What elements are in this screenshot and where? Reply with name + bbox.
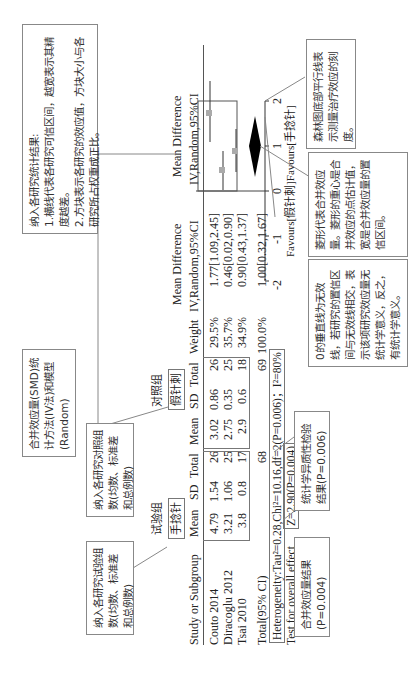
tick-neg2: -2 xyxy=(270,280,284,290)
annotation-overall: 合并效应量结果(P=0.004) xyxy=(294,537,330,637)
annotation-effect-model: 合并效应量(SMD)统计方法(IV法)和模型(Random) xyxy=(22,349,76,457)
annotation-study-results: 纳入各研究统计结果: 1.横线代表各研究可信区间，越宽表示其精度越差。 2.方块… xyxy=(22,24,98,234)
annotation-diamond: 菱形代表合并效应量。菱形的重心是合并效应的点估计值，宽是合并效应量的置信区间。 xyxy=(308,152,408,257)
tick-0: 0 xyxy=(270,188,284,194)
annotation-exp-data: 纳入各研究试验组数(均数、标准差和总例数) xyxy=(86,541,134,635)
annotation-heterogeneity: 统计学异质性检验结果(P=0.006) xyxy=(294,411,330,511)
forest-plot-figure: 试验组 手捻针 对照组 假针刺 Study or Subgroup Mean S… xyxy=(0,0,418,697)
tick-1: 1 xyxy=(270,143,284,149)
annotation-axis: 森林图底部平行线表示测量治疗效应的刻度。 xyxy=(306,39,356,149)
tick-neg1: -1 xyxy=(270,234,284,244)
annotation-control-data: 纳入各研究对照组数(均数、标准差和总例数) xyxy=(86,423,134,517)
tick-2: 2 xyxy=(270,98,284,104)
favours-label: Favours[假针刺]Favours[手捻针] xyxy=(283,105,297,257)
annotation-null-line: 0的垂直线为无效线，若研究的置信区间与无效线相交，表示该项研究效应量无统计学意义… xyxy=(308,259,408,367)
